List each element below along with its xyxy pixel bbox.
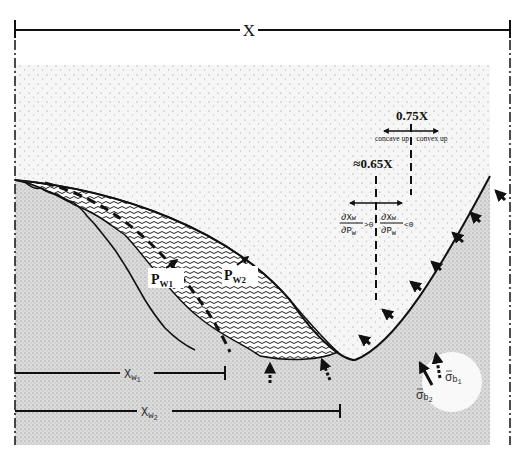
svg-text:∂Xw: ∂Xw — [381, 213, 397, 223]
label-075x: 0.75X — [396, 108, 429, 123]
label-concave-up: concave up — [375, 134, 409, 143]
x-total-label: X — [243, 21, 255, 40]
label-convex-up: convex up — [416, 134, 447, 143]
label-065x: ≈0.65X — [353, 156, 393, 171]
svg-text:<0: <0 — [404, 220, 414, 229]
svg-text:∂Xw: ∂Xw — [341, 213, 357, 223]
diagram: X 0.75X concave up convex up ≈0.65X ∂Xw … — [0, 0, 530, 456]
svg-text:>0: >0 — [364, 220, 374, 229]
